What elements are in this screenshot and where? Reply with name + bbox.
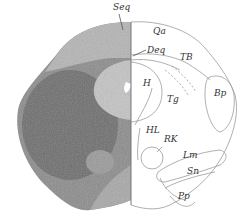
- left-shaded-half: [0, 0, 131, 224]
- label-seq: Seq: [113, 3, 130, 12]
- label-h: H: [143, 79, 151, 88]
- label-rk: RK: [164, 135, 178, 144]
- label-deq: Deq: [147, 46, 165, 55]
- midbrain-section-figure: Seq Qa Deq TB H Tg Bp HL RK Lm Sn Pp: [0, 0, 247, 224]
- right-outline-half: [119, 14, 237, 209]
- label-hl: HL: [146, 126, 160, 135]
- midbrain-illustration: [0, 0, 247, 224]
- label-tb: TB: [180, 53, 193, 62]
- label-sn: Sn: [187, 167, 199, 176]
- label-qa: Qa: [153, 27, 166, 36]
- label-lm: Lm: [183, 151, 198, 160]
- label-bp: Bp: [214, 89, 226, 98]
- label-tg: Tg: [167, 95, 179, 104]
- label-pp: Pp: [178, 192, 190, 201]
